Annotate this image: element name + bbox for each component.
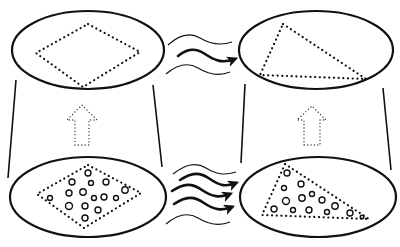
wave-arrow-icon xyxy=(174,198,232,209)
thin-wave-icon xyxy=(166,215,230,225)
ellipse-bottom-right xyxy=(240,157,396,237)
wave-arrow-icon xyxy=(172,185,230,196)
triangle-with-particles-icon xyxy=(262,164,369,219)
particles-diamond xyxy=(48,170,129,221)
triangle-shape-icon xyxy=(260,24,366,79)
up-arrow-right xyxy=(297,106,326,145)
ellipse-top-left xyxy=(12,11,164,89)
connector-right-inner xyxy=(241,84,245,163)
up-arrow-left xyxy=(67,105,97,145)
panel-bottom-right xyxy=(240,157,396,237)
connector-right-outer xyxy=(383,88,391,170)
wave-arrow-icon xyxy=(178,50,235,62)
connector-lines xyxy=(8,80,391,178)
diagram-canvas xyxy=(0,0,400,247)
thin-wave-icon xyxy=(166,65,230,75)
panel-top-right xyxy=(239,11,393,89)
dotted-up-arrow-icon xyxy=(67,105,97,145)
connector-left-outer xyxy=(8,80,16,178)
particles-triangle xyxy=(271,170,364,219)
wave-arrow-bottom xyxy=(166,165,236,225)
panel-top-left xyxy=(12,11,164,89)
dotted-up-arrow-icon xyxy=(297,106,326,145)
wave-arrow-top xyxy=(166,35,235,75)
panel-bottom-left xyxy=(10,157,166,237)
connector-left-inner xyxy=(153,85,162,167)
thin-wave-icon xyxy=(173,165,236,174)
diamond-shape-icon xyxy=(36,24,140,87)
thin-wave-icon xyxy=(168,35,232,45)
